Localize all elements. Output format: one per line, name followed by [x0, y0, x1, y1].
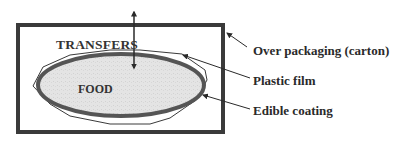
transfers-label: TRANSFERS: [56, 38, 138, 52]
diagram-graphics: [0, 0, 394, 143]
food-ellipse: [38, 54, 204, 116]
food-label: FOOD: [78, 83, 113, 95]
plastic-film-label: Plastic film: [253, 74, 315, 87]
packaging-diagram: TRANSFERS FOOD Over packaging (carton) P…: [0, 0, 394, 143]
edible-coating-label: Edible coating: [253, 104, 333, 117]
over-packaging-label: Over packaging (carton): [253, 44, 389, 57]
over-packaging-pointer: [227, 33, 247, 47]
edible-coating-pointer: [203, 95, 250, 109]
